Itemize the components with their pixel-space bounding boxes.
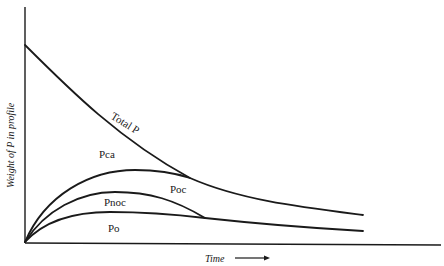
x-axis-arrow-icon bbox=[235, 256, 270, 261]
total-p-curve bbox=[25, 45, 363, 215]
pnoc-label: Pnoc bbox=[104, 196, 126, 208]
total-p-label: Total P bbox=[109, 110, 142, 137]
y-axis-label: Weight of P in profile bbox=[5, 102, 16, 188]
po-label: Po bbox=[108, 222, 120, 234]
pca-label: Pca bbox=[99, 148, 115, 160]
po-curve bbox=[25, 212, 363, 242]
phosphorus-chart: Total P Pca Poc Pnoc Po Weight of P in p… bbox=[0, 0, 444, 266]
poc-label: Poc bbox=[170, 183, 187, 195]
x-axis-label: Time bbox=[205, 253, 225, 264]
x-axis bbox=[25, 243, 441, 245]
